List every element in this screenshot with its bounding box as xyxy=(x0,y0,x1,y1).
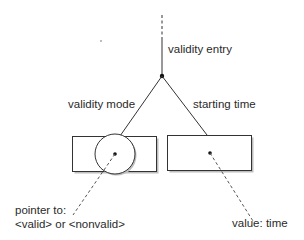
stray-dot xyxy=(100,40,102,42)
label-value-time: value: time xyxy=(232,216,288,230)
label-valid-or-nonvalid: <valid> or <nonvalid> xyxy=(15,217,125,231)
label-validity-mode: validity mode xyxy=(68,97,135,111)
label-validity-entry: validity entry xyxy=(168,42,232,56)
label-starting-time: starting time xyxy=(193,97,256,111)
label-pointer-to: pointer to: xyxy=(15,203,66,217)
